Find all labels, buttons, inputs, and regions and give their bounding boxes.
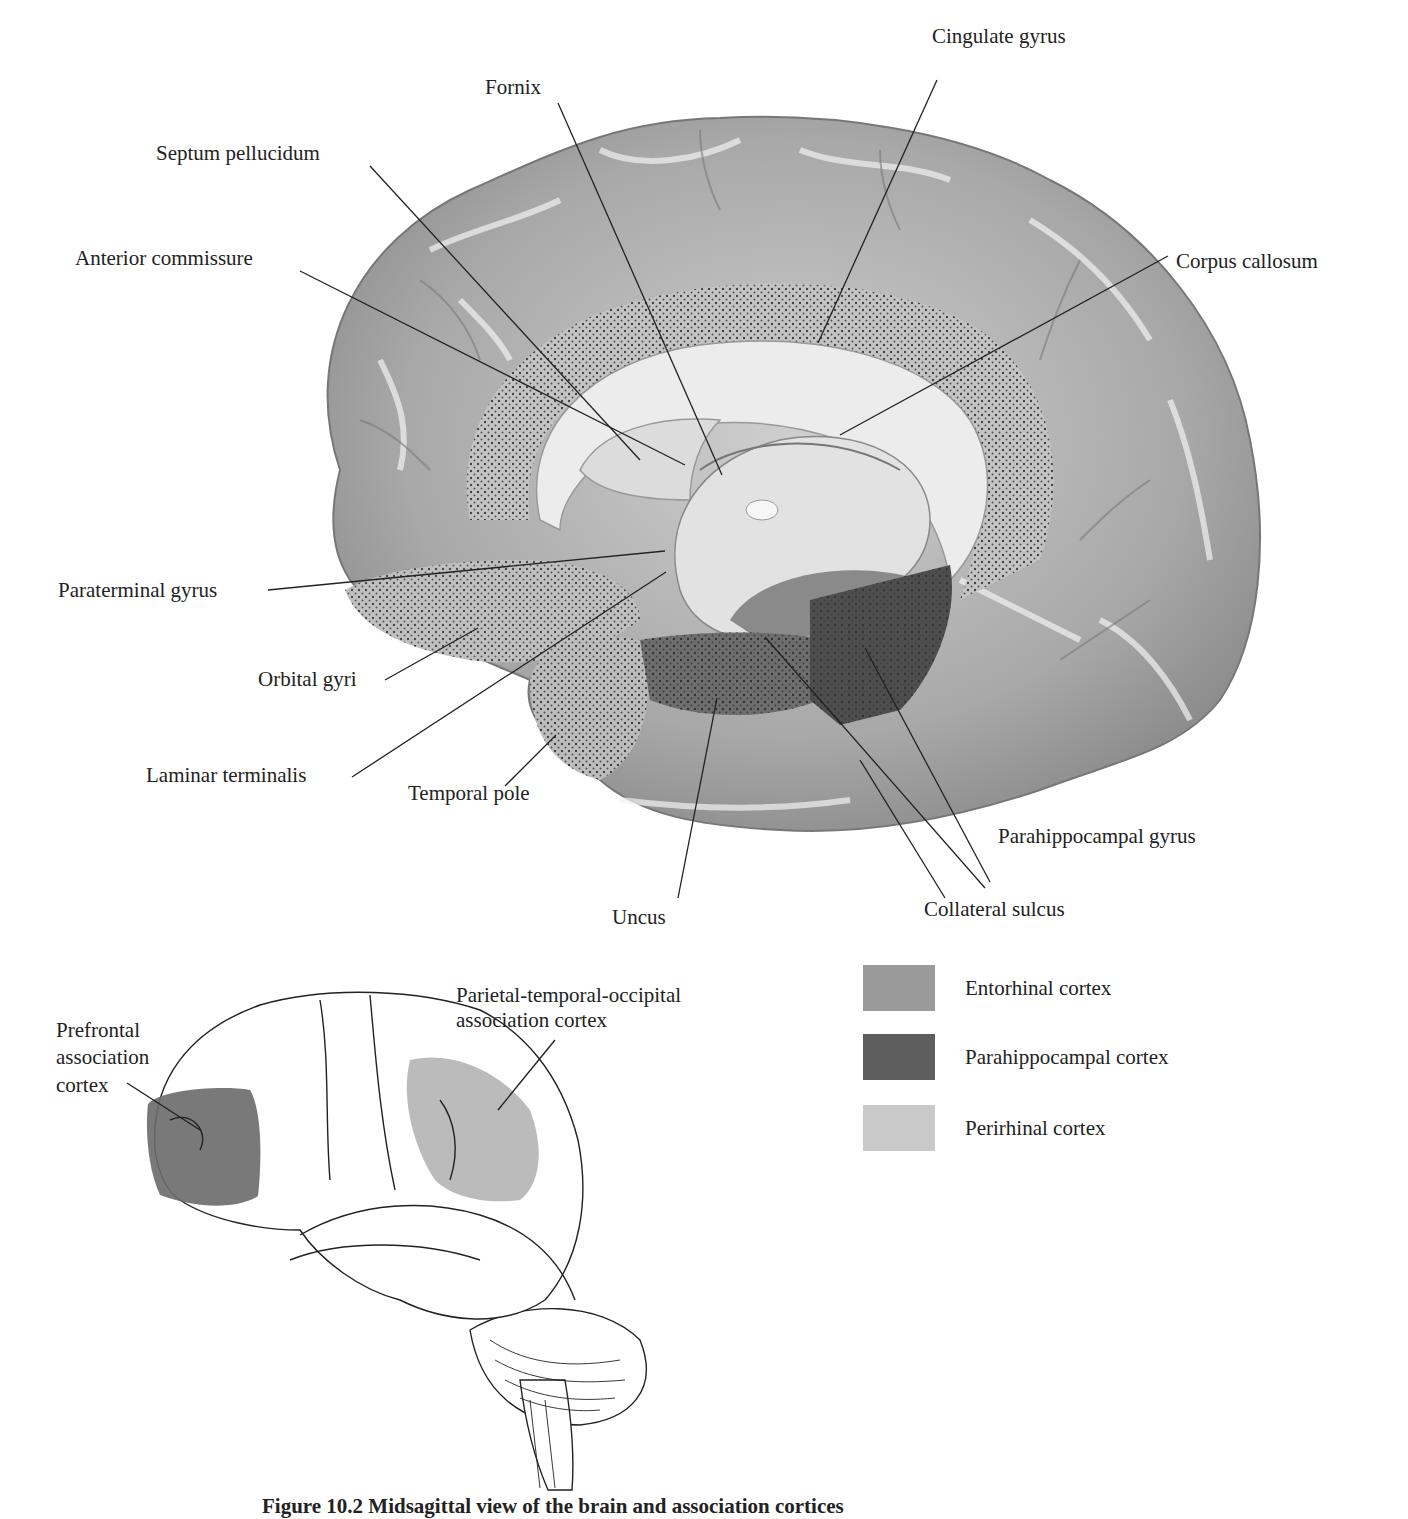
legend-swatch-parahippocampal bbox=[863, 1034, 935, 1080]
label-ptoc-line1: Parietal-temporal-occipital bbox=[456, 983, 681, 1008]
label-uncus: Uncus bbox=[612, 905, 666, 929]
legend-label: Entorhinal cortex bbox=[965, 976, 1111, 1001]
label-prefrontal-line2: association bbox=[56, 1044, 149, 1071]
legend-parahippocampal: Parahippocampal cortex bbox=[863, 1034, 1169, 1080]
legend-label: Parahippocampal cortex bbox=[965, 1045, 1169, 1070]
label-septum-pellucidum: Septum pellucidum bbox=[156, 141, 320, 165]
figure-caption: Figure 10.2 Midsagittal view of the brai… bbox=[262, 1494, 844, 1519]
label-orbital-gyri: Orbital gyri bbox=[258, 667, 357, 691]
label-corpus-callosum: Corpus callosum bbox=[1176, 249, 1318, 273]
label-prefrontal-line1: Prefrontal bbox=[56, 1017, 149, 1044]
label-ptoc: Parietal-temporal-occipital association … bbox=[456, 983, 681, 1033]
label-laminar-terminalis: Laminar terminalis bbox=[146, 763, 306, 787]
label-paraterminal-gyrus: Paraterminal gyrus bbox=[58, 578, 217, 602]
prefrontal-patch bbox=[147, 1088, 260, 1206]
legend-swatch-entorhinal bbox=[863, 965, 935, 1011]
label-fornix: Fornix bbox=[485, 75, 541, 99]
legend-perirhinal: Perirhinal cortex bbox=[863, 1105, 1106, 1151]
legend-swatch-perirhinal bbox=[863, 1105, 935, 1151]
label-parahippocampal-gyrus: Parahippocampal gyrus bbox=[998, 824, 1196, 848]
label-ptoc-line2: association cortex bbox=[456, 1008, 681, 1033]
label-temporal-pole: Temporal pole bbox=[408, 781, 530, 805]
label-collateral-sulcus: Collateral sulcus bbox=[924, 897, 1065, 921]
legend-label: Perirhinal cortex bbox=[965, 1116, 1106, 1141]
legend-entorhinal: Entorhinal cortex bbox=[863, 965, 1111, 1011]
ptoc-patch bbox=[407, 1057, 539, 1201]
label-prefrontal: Prefrontal association cortex bbox=[56, 1017, 149, 1099]
label-anterior-commissure: Anterior commissure bbox=[75, 246, 253, 270]
label-prefrontal-line3: cortex bbox=[56, 1072, 149, 1099]
label-cingulate-gyrus: Cingulate gyrus bbox=[932, 24, 1066, 48]
